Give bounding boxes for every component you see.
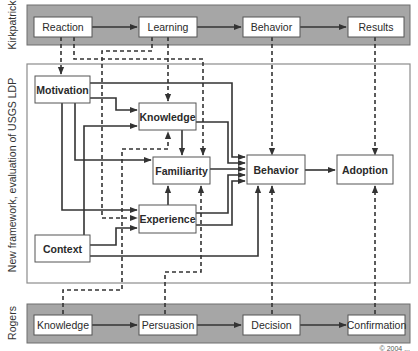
rogers-box-confirmation: Confirmation <box>347 315 407 335</box>
svg-text:Decision: Decision <box>251 319 291 331</box>
svg-text:Familiarity: Familiarity <box>155 165 208 177</box>
rogers-box-decision: Decision <box>243 315 300 335</box>
copyright-text: © 2004 ... <box>380 345 411 351</box>
kirkpatrick-box-behavior: Behavior <box>243 17 300 37</box>
svg-text:Context: Context <box>43 243 83 255</box>
framework-box-context: Context <box>35 235 90 262</box>
rogers-label: Rogers <box>6 306 18 340</box>
rogers-box-knowledge: Knowledge <box>34 315 92 335</box>
framework-box-motivation: Motivation <box>35 76 90 103</box>
svg-text:Reaction: Reaction <box>42 21 84 33</box>
framework-box-knowledge: Knowledge <box>139 103 196 130</box>
framework-label: New framework, evaluation of USGS LDP <box>6 78 18 272</box>
svg-text:Knowledge: Knowledge <box>37 319 89 331</box>
svg-text:Persuasion: Persuasion <box>142 319 195 331</box>
svg-text:Learning: Learning <box>148 21 189 33</box>
framework-box-experience: Experience <box>139 205 196 233</box>
framework-box-adoption: Adoption <box>337 155 393 184</box>
svg-text:Behavior: Behavior <box>251 21 293 33</box>
svg-text:Confirmation: Confirmation <box>347 319 407 331</box>
rogers-box-persuasion: Persuasion <box>139 315 197 335</box>
svg-text:Behavior: Behavior <box>254 164 299 176</box>
svg-text:Motivation: Motivation <box>36 84 89 96</box>
svg-text:Knowledge: Knowledge <box>139 111 195 123</box>
framework-box-familiarity: Familiarity <box>153 157 210 184</box>
svg-text:Results: Results <box>358 21 393 33</box>
kirkpatrick-box-learning: Learning <box>139 17 197 37</box>
kirkpatrick-box-results: Results <box>348 17 404 37</box>
diagram-canvas: Kirkpatrick New framework, evaluation of… <box>0 0 418 351</box>
kirkpatrick-label: Kirkpatrick <box>6 0 18 50</box>
svg-text:Experience: Experience <box>139 213 195 225</box>
kirkpatrick-box-reaction: Reaction <box>34 17 92 37</box>
svg-text:Adoption: Adoption <box>342 164 388 176</box>
framework-box-behavior: Behavior <box>247 155 305 184</box>
